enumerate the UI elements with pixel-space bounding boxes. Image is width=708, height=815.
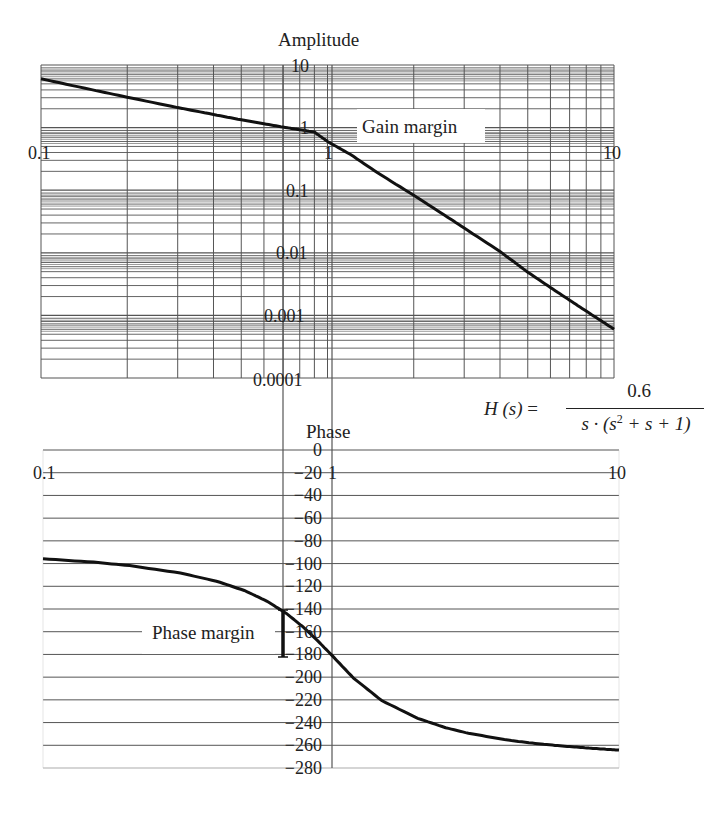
phase-y-tick: −120 <box>285 576 322 596</box>
phase-x-tick: 0.1 <box>33 463 56 483</box>
formula-h-of-s: H (s) <box>484 398 523 419</box>
gain-margin-label: Gain margin <box>362 116 458 137</box>
amplitude-grid <box>41 65 614 378</box>
phase-y-tick: −80 <box>294 531 322 551</box>
phase-x-tick: 10 <box>608 463 626 483</box>
formula-equals: = <box>527 398 538 419</box>
amp-x-tick: 1 <box>324 143 333 163</box>
phase-y-tick: −100 <box>285 554 322 574</box>
phase-title: Phase <box>306 421 350 442</box>
phase-y-tick: −160 <box>285 622 322 642</box>
amp-x-tick: 0.1 <box>28 143 51 163</box>
amp-y-tick: 0.0001 <box>253 370 303 390</box>
phase-y-tick: −20 <box>294 463 322 483</box>
phase-y-tick: −60 <box>294 508 322 528</box>
phase-y-tick: −240 <box>285 713 322 733</box>
phase-y-ticks: 0−20−40−60−80−100−120−140−160−180−200−22… <box>285 440 322 778</box>
phase-y-tick: −280 <box>285 758 322 778</box>
formula-denominator: s · (s2 + s + 1) <box>566 412 706 435</box>
phase-y-tick: 0 <box>313 440 322 460</box>
amp-y-tick: 1 <box>300 118 309 138</box>
amp-y-tick: 0.001 <box>264 306 305 326</box>
phase-margin-label: Phase margin <box>152 622 255 643</box>
fraction-bar <box>566 408 704 409</box>
phase-y-tick: −260 <box>285 735 322 755</box>
phase-grid <box>43 450 619 768</box>
phase-y-tick: −180 <box>285 644 322 664</box>
phase-x-tick: 1 <box>328 463 337 483</box>
amplitude-title: Amplitude <box>278 29 359 50</box>
phase-y-tick: −220 <box>285 690 322 710</box>
phase-y-tick: −140 <box>285 599 322 619</box>
phase-y-tick: −40 <box>294 485 322 505</box>
amp-y-tick: 0.01 <box>276 243 308 263</box>
phase-y-tick: −200 <box>285 667 322 687</box>
amp-x-tick: 10 <box>603 143 621 163</box>
den-post: + s + 1) <box>623 413 691 434</box>
transfer-function: H (s) = 0.6 s · (s2 + s + 1) <box>484 386 704 446</box>
amp-y-tick: 0.1 <box>286 181 309 201</box>
amp-y-tick: 10 <box>291 56 309 76</box>
formula-numerator: 0.6 <box>594 380 684 402</box>
formula-lhs: H (s) = <box>484 398 538 420</box>
den-pre: s · (s <box>581 413 616 434</box>
